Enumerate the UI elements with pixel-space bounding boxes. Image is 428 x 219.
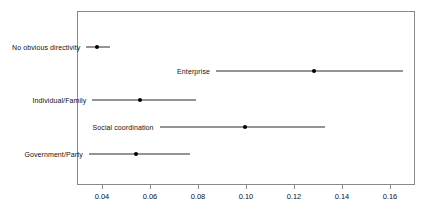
- x-tick-mark: [342, 185, 343, 189]
- x-tick-mark: [102, 185, 103, 189]
- x-tick-mark: [294, 185, 295, 189]
- x-tick-mark: [150, 185, 151, 189]
- x-tick-mark: [198, 185, 199, 189]
- dot-whisker-chart: No obvious directivityEnterpriseIndividu…: [0, 0, 428, 219]
- x-tick-label: 0.04: [95, 192, 110, 201]
- category-label: No obvious directivity: [12, 44, 80, 51]
- x-tick-mark: [246, 185, 247, 189]
- x-tick-label: 0.06: [143, 192, 158, 201]
- x-tick-label: 0.14: [335, 192, 350, 201]
- x-tick-label: 0.12: [287, 192, 302, 201]
- x-tick-mark: [390, 185, 391, 189]
- x-tick-label: 0.08: [191, 192, 206, 201]
- plot-frame: [77, 11, 415, 185]
- category-label: Government/Party: [24, 151, 82, 158]
- x-tick-label: 0.16: [383, 192, 398, 201]
- x-tick-label: 0.10: [239, 192, 254, 201]
